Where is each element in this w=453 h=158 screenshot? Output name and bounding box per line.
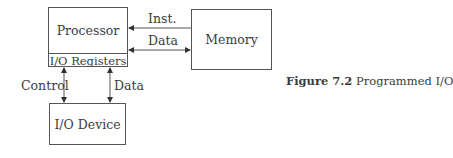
data-label-memory: Data: [148, 33, 178, 48]
inst-label: Inst.: [148, 11, 176, 26]
data-label-io: Data: [114, 78, 144, 93]
control-label: Control: [21, 78, 69, 93]
figure-number: Figure 7.2: [286, 74, 352, 88]
figure-title: Programmed I/O: [356, 74, 453, 88]
figure-caption: Figure 7.2 Programmed I/O: [286, 74, 453, 88]
